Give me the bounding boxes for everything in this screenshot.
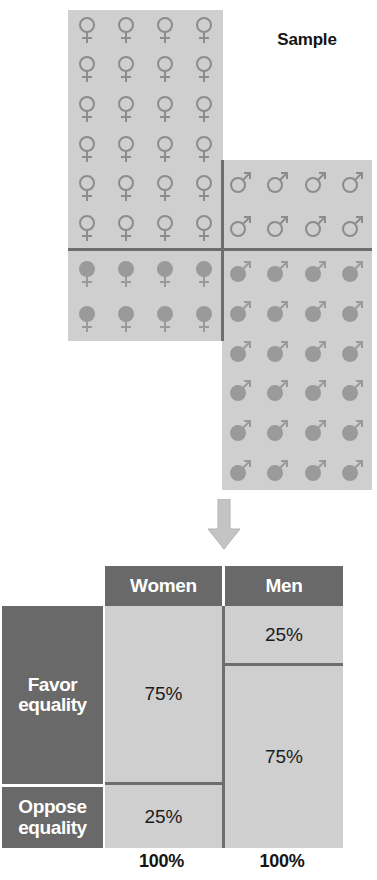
venus-symbol-filled-icon — [107, 251, 146, 296]
row-label-oppose-line2: equality — [18, 818, 87, 838]
table-header-men: Men — [225, 566, 343, 606]
venus-symbol-filled-icon — [107, 296, 146, 341]
venus-symbol-icon — [184, 129, 223, 169]
cell-women-favor: 75% — [105, 606, 222, 782]
mars-symbol-filled-icon — [335, 450, 373, 490]
venus-symbol-icon — [107, 169, 146, 209]
mars-symbol-filled-icon — [222, 251, 260, 291]
women-pictogram-panel — [68, 10, 223, 341]
women-outline-icon-grid — [68, 10, 223, 248]
women-filled-icon-grid — [68, 251, 223, 341]
cell-men-favor-bottom: 75% — [225, 666, 343, 848]
mars-symbol-filled-icon — [297, 450, 335, 490]
mars-symbol-filled-icon — [260, 331, 298, 371]
sample-label: Sample — [262, 30, 352, 50]
mars-symbol-filled-icon — [335, 251, 373, 291]
mars-symbol-icon — [335, 160, 373, 204]
row-label-favor-line2: equality — [18, 695, 87, 715]
venus-symbol-icon — [184, 208, 223, 248]
mars-symbol-icon — [335, 204, 373, 248]
cell-men-favor-top: 25% — [225, 606, 343, 663]
mars-symbol-filled-icon — [260, 370, 298, 410]
venus-symbol-filled-icon — [146, 251, 185, 296]
venus-symbol-icon — [68, 10, 107, 50]
mars-symbol-filled-icon — [297, 410, 335, 450]
venus-symbol-icon — [146, 169, 185, 209]
men-panel-divider — [222, 248, 372, 251]
mars-symbol-filled-icon — [260, 450, 298, 490]
row-label-oppose-line1: Oppose — [18, 797, 86, 817]
venus-symbol-icon — [184, 50, 223, 90]
result-table: Women Men Favor equality Oppose equality… — [2, 566, 343, 848]
mars-symbol-filled-icon — [297, 370, 335, 410]
venus-symbol-icon — [107, 10, 146, 50]
total-men: 100% — [223, 851, 341, 872]
venus-symbol-filled-icon — [68, 251, 107, 296]
down-arrow-icon — [206, 499, 242, 551]
total-women: 100% — [103, 851, 220, 872]
venus-symbol-filled-icon — [146, 296, 185, 341]
venus-symbol-icon — [107, 129, 146, 169]
mars-symbol-filled-icon — [222, 410, 260, 450]
men-pictogram-panel — [222, 160, 372, 490]
men-filled-icon-grid — [222, 251, 372, 490]
venus-symbol-icon — [184, 89, 223, 129]
venus-symbol-icon — [184, 169, 223, 209]
venus-symbol-icon — [107, 89, 146, 129]
venus-symbol-icon — [146, 50, 185, 90]
mars-symbol-filled-icon — [335, 331, 373, 371]
mars-symbol-icon — [297, 160, 335, 204]
venus-symbol-filled-icon — [184, 296, 223, 341]
mars-symbol-filled-icon — [260, 251, 298, 291]
mars-symbol-filled-icon — [335, 410, 373, 450]
row-label-favor-line1: Favor — [28, 675, 78, 695]
venus-symbol-icon — [68, 129, 107, 169]
venus-symbol-filled-icon — [68, 296, 107, 341]
venus-symbol-icon — [146, 89, 185, 129]
venus-symbol-icon — [107, 208, 146, 248]
mars-symbol-icon — [297, 204, 335, 248]
venus-symbol-icon — [146, 10, 185, 50]
venus-symbol-icon — [68, 169, 107, 209]
mars-symbol-icon — [260, 204, 298, 248]
venus-symbol-icon — [107, 50, 146, 90]
women-panel-divider — [68, 248, 223, 251]
venus-symbol-icon — [184, 10, 223, 50]
mars-symbol-icon — [222, 160, 260, 204]
figure-canvas: Sample Women Men Favor equality Oppose e… — [0, 0, 377, 880]
cell-women-oppose: 25% — [105, 785, 222, 848]
mars-symbol-filled-icon — [260, 291, 298, 331]
venus-symbol-icon — [68, 208, 107, 248]
mars-symbol-filled-icon — [222, 291, 260, 331]
venus-symbol-icon — [68, 50, 107, 90]
mars-symbol-filled-icon — [297, 251, 335, 291]
row-label-oppose-equality: Oppose equality — [2, 787, 103, 848]
men-outline-icon-grid — [222, 160, 372, 248]
venus-symbol-icon — [146, 129, 185, 169]
mars-symbol-filled-icon — [222, 370, 260, 410]
mars-symbol-filled-icon — [222, 331, 260, 371]
mars-symbol-filled-icon — [222, 450, 260, 490]
mars-symbol-filled-icon — [297, 291, 335, 331]
row-label-favor-equality: Favor equality — [2, 606, 103, 784]
venus-symbol-icon — [146, 208, 185, 248]
mars-symbol-icon — [260, 160, 298, 204]
mars-symbol-filled-icon — [260, 410, 298, 450]
venus-symbol-filled-icon — [184, 251, 223, 296]
mars-symbol-filled-icon — [335, 291, 373, 331]
mars-symbol-icon — [222, 204, 260, 248]
table-column-divider — [222, 606, 225, 848]
mars-symbol-filled-icon — [297, 331, 335, 371]
table-header-women: Women — [105, 566, 222, 606]
venus-symbol-icon — [68, 89, 107, 129]
mars-symbol-filled-icon — [335, 370, 373, 410]
